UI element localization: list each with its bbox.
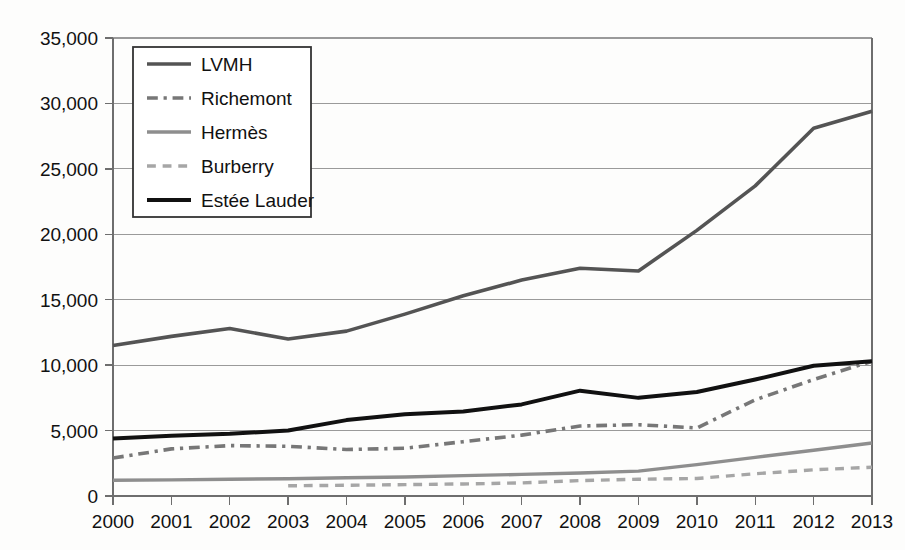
y-axis-group: 05,00010,00015,00020,00025,00030,00035,0… [40, 28, 113, 507]
x-tick-label: 2011 [735, 511, 776, 532]
chart-legend: LVMHRichemontHermèsBurberryEstée Lauder [133, 47, 315, 217]
x-tick-label: 2002 [209, 511, 251, 532]
x-tick-label: 2013 [851, 511, 893, 532]
chart-canvas: 05,00010,00015,00020,00025,00030,00035,0… [0, 0, 905, 550]
y-tick-label: 30,000 [40, 93, 98, 114]
x-tick-label: 2003 [267, 511, 309, 532]
x-tick-label: 2006 [442, 511, 484, 532]
legend-label-herm-s: Hermès [201, 122, 268, 143]
legend-label-lvmh: LVMH [201, 54, 252, 75]
x-tick-label: 2010 [676, 511, 718, 532]
x-tick-label: 2000 [92, 511, 134, 532]
x-tick-label: 2004 [325, 511, 368, 532]
y-tick-label: 10,000 [40, 355, 98, 376]
y-tick-label: 35,000 [40, 28, 98, 49]
x-tick-label: 2001 [150, 511, 192, 532]
legend-label-est-e-lauder: Estée Lauder [201, 190, 315, 211]
x-tick-label: 2007 [501, 511, 543, 532]
y-tick-label: 0 [87, 486, 98, 507]
y-tick-label: 20,000 [40, 224, 98, 245]
legend-label-burberry: Burberry [201, 156, 274, 177]
y-tick-label: 15,000 [40, 290, 98, 311]
x-tick-label: 2008 [559, 511, 601, 532]
y-tick-label: 25,000 [40, 159, 98, 180]
series-line-est-e-lauder [113, 361, 872, 438]
x-tick-label: 2005 [384, 511, 426, 532]
y-tick-label: 5,000 [50, 421, 98, 442]
legend-label-richemont: Richemont [201, 88, 293, 109]
x-tick-label: 2009 [617, 511, 659, 532]
line-chart: 05,00010,00015,00020,00025,00030,00035,0… [0, 0, 905, 550]
x-tick-label: 2012 [792, 511, 834, 532]
